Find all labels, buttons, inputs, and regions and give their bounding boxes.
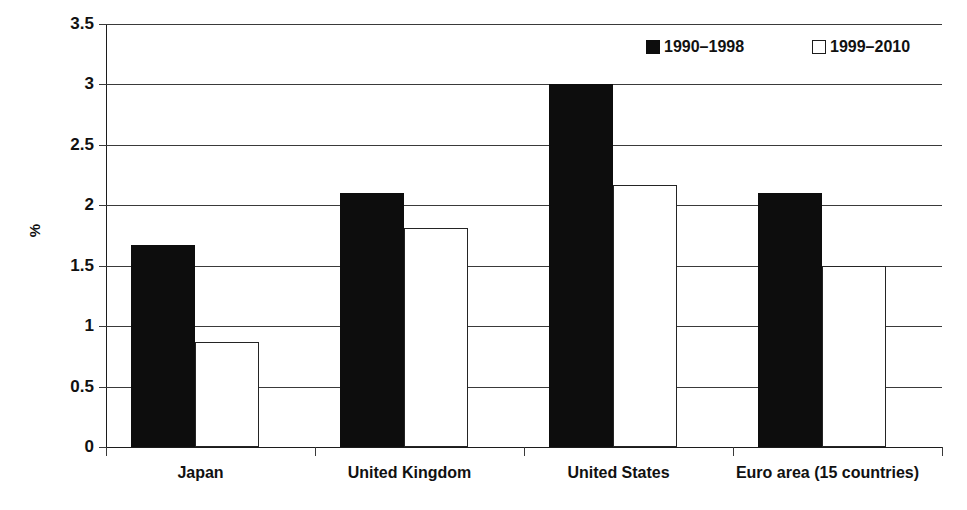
- bar: [758, 193, 822, 447]
- y-axis-tick-mark: [99, 447, 106, 448]
- legend-swatch-icon: [812, 40, 826, 54]
- y-axis-tick-mark: [99, 205, 106, 206]
- x-axis-category-label: United Kingdom: [348, 464, 472, 482]
- bar-chart: % 00.511.522.533.5 JapanUnited KingdomUn…: [0, 0, 967, 510]
- legend-item: 1999–2010: [812, 38, 910, 56]
- bar: [404, 228, 468, 447]
- y-axis-tick-label: 0.5: [34, 377, 94, 397]
- x-axis-category-label: United States: [567, 464, 669, 482]
- x-axis-tick-mark: [733, 447, 734, 456]
- y-axis-tick-label: 3: [34, 74, 94, 94]
- y-axis-line: [106, 24, 107, 447]
- bar: [195, 342, 259, 447]
- x-axis-tick-mark: [942, 447, 943, 456]
- y-axis-tick-mark: [99, 387, 106, 388]
- bar: [822, 266, 886, 447]
- grid-line: [106, 24, 942, 25]
- y-axis-tick-mark: [99, 326, 106, 327]
- bar: [613, 185, 677, 447]
- y-axis-tick-mark: [99, 145, 106, 146]
- legend-swatch-icon: [646, 40, 660, 54]
- plot-area: [106, 24, 942, 447]
- bar: [131, 245, 195, 447]
- y-axis-tick-mark: [99, 84, 106, 85]
- y-axis-tick-label: 0: [34, 437, 94, 457]
- grid-line: [106, 84, 942, 85]
- x-axis-category-label: Euro area (15 countries): [736, 464, 919, 482]
- y-axis-tick-label: 1: [34, 316, 94, 336]
- legend-label: 1999–2010: [830, 38, 910, 56]
- y-axis-tick-mark: [99, 24, 106, 25]
- y-axis-tick-mark: [99, 266, 106, 267]
- grid-line: [106, 145, 942, 146]
- x-axis-tick-mark: [315, 447, 316, 456]
- y-axis-tick-label: 3.5: [34, 14, 94, 34]
- x-axis-category-label: Japan: [177, 464, 223, 482]
- y-axis-title: %: [26, 211, 43, 251]
- y-axis-tick-label: 2: [34, 195, 94, 215]
- legend-label: 1990–1998: [664, 38, 744, 56]
- x-axis-tick-mark: [106, 447, 107, 456]
- y-axis-tick-label: 1.5: [34, 256, 94, 276]
- x-axis-tick-mark: [524, 447, 525, 456]
- bar: [549, 84, 613, 447]
- bar: [340, 193, 404, 447]
- y-axis-tick-label: 2.5: [34, 135, 94, 155]
- legend-item: 1990–1998: [646, 38, 744, 56]
